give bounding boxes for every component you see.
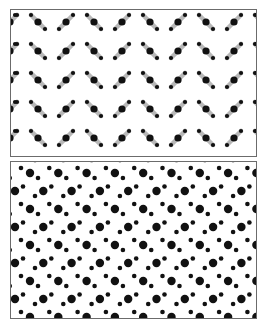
atom-small [231, 266, 236, 271]
atom-small [231, 302, 236, 307]
atom-small [160, 202, 165, 207]
atom-large [174, 105, 181, 112]
atom-small [155, 56, 159, 60]
atom-small [149, 248, 154, 253]
atom-small [75, 238, 80, 243]
atom-large [11, 295, 19, 303]
atom-large [96, 295, 104, 303]
atom-small [43, 56, 47, 60]
atom-small [57, 27, 61, 31]
atom-small [47, 238, 52, 243]
atom-small [118, 230, 123, 235]
atom-large [196, 241, 204, 249]
atom-large [202, 76, 209, 83]
atom-large [174, 134, 181, 141]
atom-large [96, 259, 104, 267]
atom-small [211, 143, 215, 147]
atom-small [118, 194, 123, 199]
atom-small [141, 42, 145, 46]
atom-large [11, 259, 19, 267]
atom-small [183, 129, 187, 133]
atom-small [121, 284, 126, 289]
atom-small [203, 230, 208, 235]
atom-small [43, 143, 47, 147]
atom-large [181, 223, 189, 231]
atom-small [162, 184, 167, 189]
atom-small [189, 310, 194, 315]
atom-large [230, 134, 237, 141]
atom-small [206, 248, 211, 253]
atom-small [174, 302, 179, 307]
atom-large [54, 169, 62, 177]
atom-small [61, 266, 66, 271]
atom-small [75, 274, 80, 279]
atom-small [104, 310, 109, 315]
atom-small [61, 194, 66, 199]
atom-small [106, 220, 111, 225]
atom-small [247, 256, 252, 261]
atom-small [29, 129, 33, 133]
atom-small [231, 230, 236, 235]
atom-small [89, 302, 94, 307]
atom-small [132, 238, 137, 243]
atom-small [191, 292, 196, 297]
atom-small [149, 284, 154, 289]
atom-small [118, 302, 123, 307]
atom-small [85, 71, 89, 75]
atom-large [230, 105, 237, 112]
atom-small [211, 114, 215, 118]
atom-large [39, 295, 47, 303]
atom-edge [13, 129, 17, 133]
atom-large [224, 241, 232, 249]
atom-small [183, 100, 187, 104]
atom-small [141, 129, 145, 133]
atom-small [64, 248, 69, 253]
atom-large [62, 105, 69, 112]
atom-small [225, 114, 229, 118]
atom-large [82, 205, 90, 213]
atom-small [127, 100, 131, 104]
atom-small [162, 292, 167, 297]
atom-large [139, 241, 147, 249]
atom-large [139, 313, 147, 319]
atom-small [247, 220, 252, 225]
atom-small [85, 100, 89, 104]
atom-small [49, 220, 54, 225]
atom-small [106, 184, 111, 189]
atom-large [82, 241, 90, 249]
atom-large [181, 187, 189, 195]
atom-large [39, 223, 47, 231]
atom-large [181, 259, 189, 267]
atom-large [11, 223, 19, 231]
atom-large [118, 105, 125, 112]
atom-large [111, 205, 119, 213]
atom-large [54, 313, 62, 319]
atom-large [196, 313, 204, 319]
atom-small [104, 274, 109, 279]
atom-small [47, 274, 52, 279]
atom-small [132, 202, 137, 207]
atom-small [189, 166, 194, 171]
atom-small [177, 284, 182, 289]
atom-small [239, 71, 243, 75]
atom-small [29, 100, 33, 104]
atom-edge [13, 42, 17, 46]
atom-small [89, 266, 94, 271]
atom-small [177, 176, 182, 181]
atom-small [92, 284, 97, 289]
atom-small [146, 302, 151, 307]
atom-large [90, 47, 97, 54]
atom-large [146, 18, 153, 25]
atom-small [19, 166, 24, 171]
atom-small [61, 302, 66, 307]
atom-small [36, 284, 41, 289]
atom-large [146, 76, 153, 83]
atom-large [230, 18, 237, 25]
atom-small [155, 27, 159, 31]
atom-large [111, 169, 119, 177]
atom-small [146, 266, 151, 271]
atom-layer [11, 162, 257, 319]
atom-small [106, 256, 111, 261]
atom-large [152, 295, 160, 303]
atom-small [206, 284, 211, 289]
